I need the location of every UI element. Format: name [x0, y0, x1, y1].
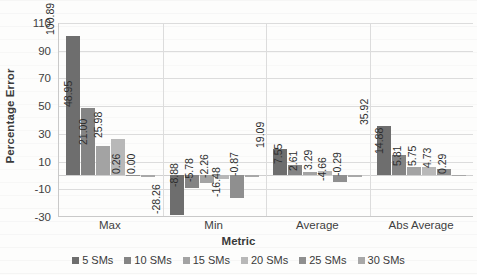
legend-swatch-icon	[241, 257, 248, 264]
x-axis-tick-3: Abs Average	[369, 219, 473, 235]
legend-label: 10 SMs	[134, 254, 171, 266]
bar[interactable]	[96, 146, 110, 175]
bar-slot: -28.26	[170, 23, 184, 216]
bar-value-label: -0.87	[227, 152, 239, 176]
bar-slot: 0.29	[452, 23, 466, 216]
bar[interactable]	[348, 175, 362, 176]
bar-value-label: 100.89	[45, 3, 57, 35]
bar-value-label: 35.92	[358, 98, 370, 124]
x-axis-tick-0: Max	[58, 219, 162, 235]
legend-swatch-icon	[72, 257, 79, 264]
bar-value-label: -0.29	[331, 152, 343, 176]
legend-label: 15 SMs	[193, 254, 230, 266]
bar-value-label: 3.29	[303, 149, 315, 169]
legend: 5 SMs10 SMs15 SMs20 SMs25 SMs30 SMs	[0, 252, 477, 268]
bar-group: 35.9214.885.815.754.730.29	[370, 23, 474, 216]
bar-slot: 35.92	[377, 23, 391, 216]
y-axis-tick-7: -30	[34, 211, 51, 223]
bar-slot: 2.61	[303, 23, 317, 216]
y-axis-tick-3: 50	[38, 100, 51, 112]
legend-label: 20 SMs	[251, 254, 288, 266]
bar-value-label: -16.48	[209, 167, 221, 197]
bar-value-label: 48.95	[63, 80, 75, 106]
bar[interactable]	[407, 167, 421, 175]
legend-swatch-icon	[183, 257, 190, 264]
bar-value-label: 0.29	[436, 154, 448, 174]
x-axis-tick-labels: MaxMinAverageAbs Average	[58, 219, 473, 235]
bar-slot: -4.66	[333, 23, 347, 216]
bar-slot: 19.09	[273, 23, 287, 216]
legend-swatch-icon	[124, 257, 131, 264]
bar[interactable]	[452, 175, 466, 176]
bar-value-label: 0.00	[126, 154, 138, 174]
plot-area: 100.8948.9521.0025.980.260.00-28.26-8.88…	[58, 23, 473, 217]
bar-group: 100.8948.9521.0025.980.260.00	[59, 23, 163, 216]
bar-value-label: 2.61	[288, 150, 300, 170]
x-axis-tick-2: Average	[266, 219, 370, 235]
bar-value-label: 5.75	[406, 146, 418, 166]
bar-value-label: 4.73	[421, 147, 433, 167]
bar-value-label: 14.88	[373, 128, 385, 154]
bar-slot: 5.75	[422, 23, 436, 216]
bar-group-bars: 100.8948.9521.0025.980.260.00	[59, 23, 163, 216]
y-axis-tick-6: -10	[34, 183, 51, 195]
legend-item[interactable]: 10 SMs	[124, 254, 171, 266]
y-axis-tick-2: 70	[38, 72, 51, 84]
legend-item[interactable]: 20 SMs	[241, 254, 288, 266]
bar[interactable]	[422, 167, 436, 175]
legend-label: 5 SMs	[82, 254, 113, 266]
bar-slot: 14.88	[392, 23, 406, 216]
bar-group-bars: -28.26-8.88-5.78-2.26-16.48-0.87	[163, 23, 267, 216]
bar-value-label: 19.09	[255, 122, 267, 148]
legend-item[interactable]: 5 SMs	[72, 254, 113, 266]
legend-label: 30 SMs	[368, 254, 405, 266]
y-axis-title: Percentage Error	[0, 0, 21, 232]
bar[interactable]	[230, 175, 244, 198]
bar[interactable]	[141, 175, 155, 176]
percentage-error-bar-chart: Percentage Error 1109070503010-10-30 100…	[0, 0, 477, 275]
bar-value-label: -28.26	[149, 184, 161, 214]
x-axis-title: Metric	[0, 235, 477, 247]
bar-slot: -8.88	[185, 23, 199, 216]
legend-swatch-icon	[358, 257, 365, 264]
bar-group: -28.26-8.88-5.78-2.26-16.48-0.87	[163, 23, 267, 216]
y-axis-title-label: Percentage Error	[4, 69, 16, 164]
bar-slot: -0.87	[245, 23, 259, 216]
y-axis-tick-5: 10	[38, 156, 51, 168]
bar-value-label: -4.66	[316, 157, 328, 181]
bar-value-label: 7.55	[273, 144, 285, 164]
bar[interactable]	[245, 175, 259, 176]
legend-item[interactable]: 15 SMs	[183, 254, 230, 266]
bar-group-bars: 19.097.552.613.29-4.66-0.29	[266, 23, 370, 216]
bar-value-label: 5.81	[391, 146, 403, 166]
y-axis-tick-1: 90	[38, 45, 51, 57]
legend-label: 25 SMs	[309, 254, 346, 266]
bar-value-label: -5.78	[182, 159, 194, 183]
bar-slot: 3.29	[318, 23, 332, 216]
bar-slot: 25.98	[111, 23, 125, 216]
bar-value-label: -8.88	[167, 163, 179, 187]
bar[interactable]	[333, 175, 347, 181]
x-axis-tick-1: Min	[162, 219, 266, 235]
bar-value-label: 25.98	[93, 112, 105, 138]
bar-value-label: -2.26	[197, 154, 209, 178]
bar-group-bars: 35.9214.885.815.754.730.29	[370, 23, 474, 216]
bar-value-label: 0.26	[111, 154, 123, 174]
bar-slot: -16.48	[230, 23, 244, 216]
bar-slot: 4.73	[437, 23, 451, 216]
bar-groups: 100.8948.9521.0025.980.260.00-28.26-8.88…	[59, 23, 473, 216]
bar-slot: 0.26	[126, 23, 140, 216]
bar-value-label: 21.00	[78, 119, 90, 145]
y-axis-tick-4: 30	[38, 128, 51, 140]
bar-group: 19.097.552.613.29-4.66-0.29	[266, 23, 370, 216]
bar-slot: 7.55	[288, 23, 302, 216]
legend-swatch-icon	[299, 257, 306, 264]
bar-slot: 5.81	[407, 23, 421, 216]
legend-item[interactable]: 25 SMs	[299, 254, 346, 266]
legend-item[interactable]: 30 SMs	[358, 254, 405, 266]
bar[interactable]	[126, 175, 140, 176]
